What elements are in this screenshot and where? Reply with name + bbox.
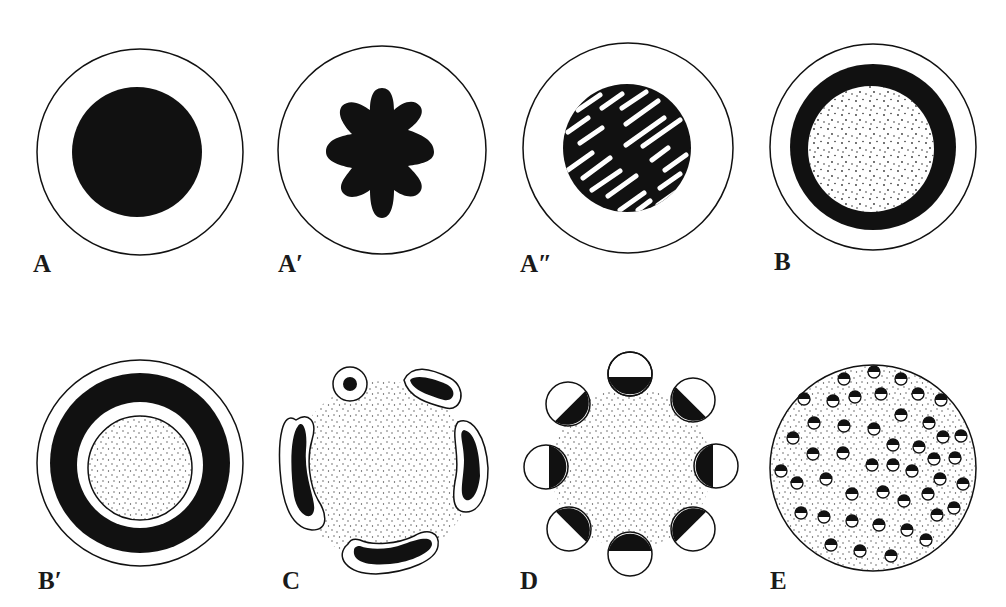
panel-label-c: C xyxy=(282,568,300,593)
panel-a xyxy=(37,49,243,255)
cell-diagram-figure xyxy=(0,0,1006,607)
panel-label-b-prime: B′ xyxy=(38,568,62,593)
panel-b-prime xyxy=(37,360,243,566)
panel-label-d: D xyxy=(520,568,538,593)
panel-a-prime xyxy=(278,46,486,254)
panel-d xyxy=(524,352,738,576)
panel-c xyxy=(280,367,488,574)
panel-b xyxy=(770,44,976,250)
panel-label-b: B xyxy=(774,249,791,274)
panel-a-double-prime xyxy=(523,43,733,253)
panel-label-e: E xyxy=(770,568,787,593)
panel-label-a: A xyxy=(33,251,51,276)
panel-label-a-prime: A′ xyxy=(278,251,303,276)
panel-label-a-double-prime: A″ xyxy=(520,251,552,276)
panel-e xyxy=(770,365,976,571)
